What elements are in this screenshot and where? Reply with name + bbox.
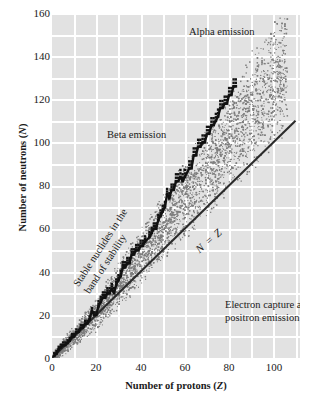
- y-tick-80: 80: [6, 180, 50, 191]
- y-tick-120: 120: [6, 94, 50, 105]
- annotation-electron-capture: Electron capture and positron emission: [225, 299, 300, 324]
- x-tick-0: 0: [32, 362, 72, 373]
- y-tick-20: 20: [6, 310, 50, 321]
- y-tick-100: 100: [6, 137, 50, 148]
- plot-area: Alpha emission Beta emission Electron ca…: [52, 13, 300, 358]
- y-axis-title: Number of neutrons (N): [17, 98, 28, 258]
- annotation-beta-emission: Beta emission: [107, 129, 166, 142]
- x-tick-60: 60: [165, 362, 205, 373]
- annotation-alpha-emission: Alpha emission: [189, 26, 255, 39]
- x-tick-80: 80: [209, 362, 249, 373]
- x-tick-40: 40: [121, 362, 161, 373]
- x-tick-100: 100: [254, 362, 294, 373]
- y-tick-160: 160: [6, 8, 50, 19]
- x-axis-title: Number of protons (Z): [52, 380, 300, 391]
- y-tick-60: 60: [6, 223, 50, 234]
- y-tick-140: 140: [6, 51, 50, 62]
- x-tick-20: 20: [76, 362, 116, 373]
- nuclide-chart-figure: 160 140 120 100 80 60 40 20 0 0 20 40 60…: [0, 0, 310, 410]
- y-tick-40: 40: [6, 267, 50, 278]
- annotation-electron-capture-line1: Electron capture and: [225, 299, 300, 310]
- annotation-electron-capture-line2: positron emission: [225, 312, 299, 323]
